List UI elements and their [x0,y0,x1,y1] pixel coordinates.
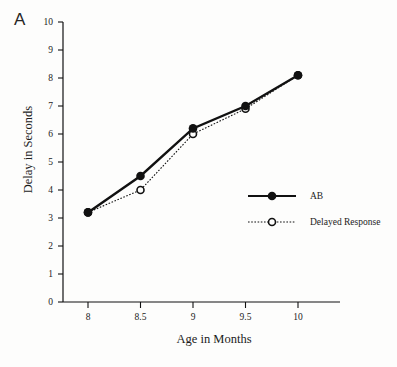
y-tick-label: 9 [48,45,53,55]
x-tick-label: 8 [86,312,91,322]
chart-legend: ABDelayed Response [248,191,380,227]
x-axis: 88.599.510 [63,302,340,322]
data-point-marker [84,208,93,217]
y-tick-label: 7 [48,101,53,111]
line-chart-canvas: 012345678910 88.599.510 ABDelayed Respon… [0,0,397,367]
series-line [88,75,298,212]
legend-item-delayed-response: Delayed Response [248,217,380,227]
y-tick-label: 3 [48,213,53,223]
y-tick-label: 8 [48,73,53,83]
y-tick-label: 2 [48,241,53,251]
legend-label: Delayed Response [310,217,380,227]
legend-item-ab: AB [248,191,323,201]
data-point-marker [136,172,145,181]
x-tick-label: 9.5 [240,312,252,322]
y-tick-label: 10 [44,17,54,27]
x-tick-label: 10 [293,312,303,322]
y-tick-label: 5 [48,157,53,167]
legend-marker [269,219,276,226]
x-tick-label: 9 [191,312,196,322]
data-point-marker [189,124,198,133]
y-axis: 012345678910 [44,17,64,307]
data-point-marker [137,187,144,194]
legend-label: AB [310,191,323,201]
y-tick-label: 0 [48,297,53,307]
data-point-marker [294,71,303,80]
data-point-marker [241,102,250,111]
y-tick-label: 1 [48,269,53,279]
figure-panel-a: A Delay in Seconds Age in Months 0123456… [0,0,397,367]
x-tick-label: 8.5 [135,312,147,322]
y-tick-label: 6 [48,129,53,139]
y-tick-label: 4 [48,185,53,195]
legend-marker [268,192,277,201]
